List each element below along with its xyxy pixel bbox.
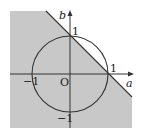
tick-x-pos: 1: [110, 62, 117, 75]
tick-x-neg: −1: [23, 75, 39, 88]
y-axis-arrow-icon: [68, 10, 73, 16]
x-axis-label: a: [126, 77, 133, 90]
diagram: a b 1 −1 1 −1 O: [0, 0, 141, 135]
tick-y-neg: −1: [57, 112, 73, 125]
tick-y-pos: 1: [72, 25, 79, 38]
origin-label: O: [60, 76, 69, 89]
y-axis-label: b: [59, 9, 66, 22]
x-axis-arrow-icon: [128, 72, 134, 77]
